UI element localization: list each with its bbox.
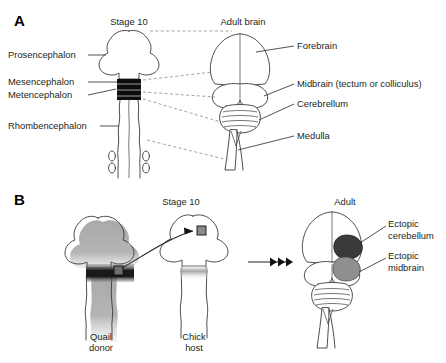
- ectopic-midbrain-blob: [333, 257, 360, 281]
- chick-host-embryo: [160, 215, 228, 338]
- figure-panel-container: A Stage 10 Adult brain: [0, 0, 446, 363]
- label-quail-donor-line1: Quail: [71, 331, 131, 342]
- label-ectopic-midbrain-line1: Ectopic: [388, 250, 446, 262]
- chick-host-band: [180, 264, 208, 280]
- label-ectopic-midbrain-line2: midbrain: [388, 262, 446, 274]
- leader-lines-b-right: [359, 226, 386, 272]
- label-ectopic-midbrain: Ectopic midbrain: [388, 250, 446, 274]
- label-quail-donor: Quail donor: [71, 331, 131, 354]
- adult-brain-b: [302, 212, 362, 348]
- graft-square-donor: [114, 266, 123, 275]
- quail-isthmus-band: [86, 264, 134, 282]
- quail-donor-embryo: [65, 216, 139, 342]
- label-ectopic-cerebellum-line2: cerebellum: [388, 230, 446, 242]
- panel-b-drawing: [0, 0, 446, 363]
- ectopic-cerebellum-blob: [334, 235, 363, 259]
- label-chick-host-line1: Chick: [164, 331, 224, 342]
- label-ectopic-cerebellum-line1: Ectopic: [388, 218, 446, 230]
- label-chick-host-line2: host: [164, 342, 224, 353]
- label-quail-donor-line2: donor: [71, 342, 131, 353]
- development-arrow: [248, 258, 293, 267]
- graft-square-host: [197, 226, 206, 235]
- label-ectopic-cerebellum: Ectopic cerebellum: [388, 218, 446, 242]
- label-chick-host: Chick host: [164, 331, 224, 354]
